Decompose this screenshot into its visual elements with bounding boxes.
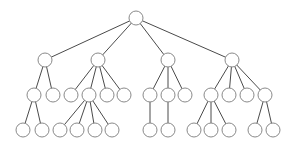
tree-node — [143, 123, 157, 137]
tree-node — [222, 123, 236, 137]
tree-node — [143, 88, 157, 102]
tree-node — [178, 88, 192, 102]
tree-node — [53, 123, 67, 137]
tree-node — [105, 123, 119, 137]
tree-node — [161, 88, 175, 102]
tree-node — [161, 53, 175, 67]
tree-node — [100, 88, 114, 102]
tree-node — [240, 88, 254, 102]
tree-node — [91, 53, 105, 67]
tree-node — [38, 53, 52, 67]
tree-node — [258, 88, 272, 102]
tree-diagram — [0, 0, 296, 153]
tree-node — [225, 53, 239, 67]
tree-node — [204, 88, 218, 102]
tree-node — [222, 88, 236, 102]
tree-node — [16, 123, 30, 137]
tree-node — [204, 123, 218, 137]
tree-node — [187, 123, 201, 137]
tree-node — [70, 123, 84, 137]
tree-node — [88, 123, 102, 137]
tree-edge — [98, 18, 136, 60]
tree-nodes — [16, 11, 280, 137]
tree-node — [64, 88, 78, 102]
tree-node — [46, 88, 60, 102]
tree-edges — [23, 18, 273, 130]
tree-edge — [45, 18, 136, 60]
tree-node — [117, 88, 131, 102]
tree-node — [161, 123, 175, 137]
tree-node — [129, 11, 143, 25]
tree-node — [27, 88, 41, 102]
tree-node — [35, 123, 49, 137]
tree-node — [266, 123, 280, 137]
tree-node — [248, 123, 262, 137]
tree-node — [82, 88, 96, 102]
tree-edge — [136, 18, 232, 60]
tree-edge — [136, 18, 168, 60]
